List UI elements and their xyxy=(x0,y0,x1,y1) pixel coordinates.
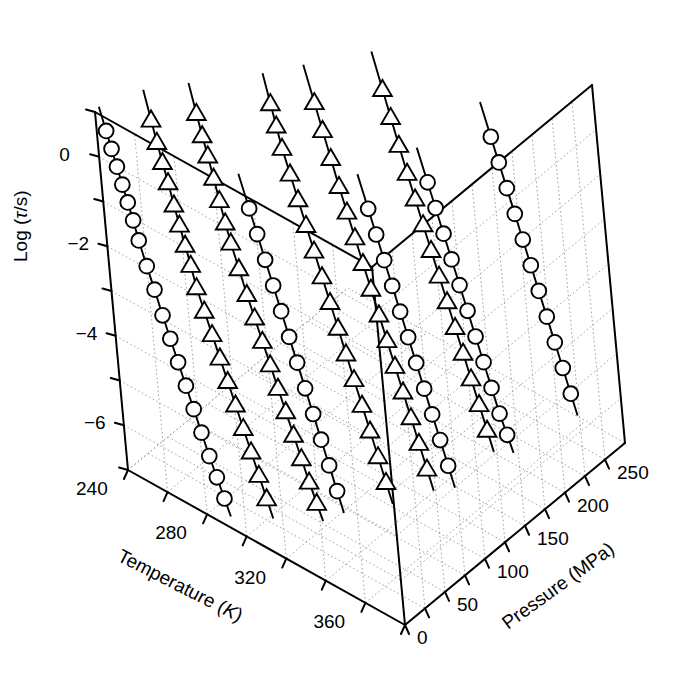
x-tick-label: 360 xyxy=(313,611,345,633)
z-tick-label: −2 xyxy=(67,233,89,255)
x-tick-label: 280 xyxy=(155,522,187,544)
z-axis-title-prefix: Log ( xyxy=(10,219,31,262)
z-axis-title-symbol: τ xyxy=(10,212,31,219)
y-tick-label: 200 xyxy=(577,495,609,517)
figure-canvas: Log (τ/s) Temperature (K) Pressure (MPa)… xyxy=(0,0,693,683)
z-tick-label: −6 xyxy=(84,412,106,434)
x-tick-label: 240 xyxy=(76,478,108,500)
z-tick-label: 0 xyxy=(59,144,70,166)
data-series xyxy=(480,102,578,415)
x-tick-label: 320 xyxy=(234,567,266,589)
y-tick-label: 150 xyxy=(537,528,569,550)
y-tick-label: 50 xyxy=(457,594,478,616)
y-tick-label: 250 xyxy=(617,462,649,484)
z-axis-title: Log (τ/s) xyxy=(10,190,32,262)
three-d-plot xyxy=(0,0,693,683)
y-tick-label: 0 xyxy=(417,627,428,649)
y-tick-label: 100 xyxy=(497,561,529,583)
z-axis-title-suffix: /s) xyxy=(10,190,31,211)
data-series-layer xyxy=(99,52,578,522)
z-tick-label: −4 xyxy=(76,323,98,345)
